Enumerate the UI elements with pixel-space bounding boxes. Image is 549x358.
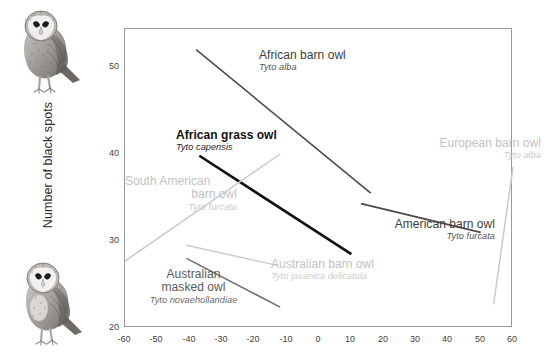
y-axis-title: Number of black spots [41,70,55,260]
species-common-name: South American [125,175,237,188]
owl-spot-chart-figure: Number of black spots 50403020 -60-50-40… [0,0,549,358]
annotation-australian-barn-owl: Australian barn owlTyto javanica delicat… [271,258,374,282]
species-latin-name: Tyto furcata [125,202,237,212]
x-tick-label: 40 [435,334,459,344]
annotation-australian-masked-owl: Australianmasked owlTyto novaehollandiae [150,268,238,305]
x-tick-label: -30 [209,334,233,344]
species-common-name-line2: masked owl [150,281,238,294]
x-tick-label: -20 [241,334,265,344]
annotation-african-grass-owl: African grass owlTyto capensis [176,129,277,153]
species-common-name: European barn owl [439,137,541,150]
species-latin-name: Tyto javanica delicatula [271,271,374,281]
annotation-african-barn-owl: African barn owlTyto alba [259,49,346,73]
species-common-name: American barn owl [395,218,495,231]
y-tick-label: 20 [97,322,119,332]
species-latin-name: Tyto alba [259,62,346,72]
series-line-australian-barn-owl [186,245,277,265]
species-latin-name: Tyto alba [439,150,541,160]
y-tick-label: 50 [97,61,119,71]
species-common-name: Australian [150,268,238,281]
species-common-name: African barn owl [259,49,346,62]
annotation-american-barn-owl: American barn owlTyto furcata [395,218,495,242]
species-latin-name: Tyto furcata [395,231,495,241]
x-tick-label: 0 [306,334,330,344]
x-tick-label: -50 [144,334,168,344]
species-common-name-line2: barn owl [125,188,237,201]
y-tick-label: 40 [97,148,119,158]
annotation-south-american-barn-owl: South Americanbarn owlTyto furcata [125,175,237,212]
species-common-name: Australian barn owl [271,258,374,271]
x-tick-label: 10 [338,334,362,344]
species-common-name: African grass owl [176,129,277,142]
x-tick-label: 50 [468,334,492,344]
barn-owl-illustration-bottom [12,256,90,356]
x-tick-label: 30 [403,334,427,344]
species-latin-name: Tyto capensis [176,142,277,152]
x-tick-label: -10 [274,334,298,344]
y-tick-label: 30 [97,235,119,245]
x-tick-label: -40 [177,334,201,344]
annotation-european-barn-owl: European barn owlTyto alba [439,137,541,161]
series-line-european-barn-owl [494,167,513,304]
x-tick-label: 60 [500,334,524,344]
species-latin-name: Tyto novaehollandiae [150,295,238,305]
x-tick-label: -60 [112,334,136,344]
x-tick-label: 20 [371,334,395,344]
